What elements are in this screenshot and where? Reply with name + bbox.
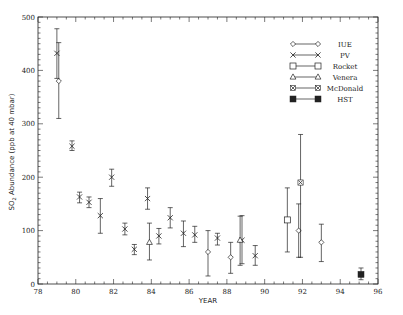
- legend-item-venera: Venera: [290, 74, 357, 82]
- series-pv: [54, 29, 258, 266]
- data-point: [156, 228, 161, 243]
- y-tick-label: 300: [22, 120, 35, 128]
- x-tick-label: 80: [71, 288, 80, 296]
- data-point: [284, 188, 290, 252]
- data-point: [86, 197, 91, 208]
- data-point: [145, 188, 150, 209]
- data-point: [181, 221, 186, 247]
- legend-item-rocket: Rocket: [290, 63, 357, 71]
- legend-item-pv: PV: [290, 52, 350, 60]
- legend-item-hst: HST: [290, 96, 353, 104]
- legend: IUEPVRocketVeneraMcDonaldHST: [290, 41, 364, 104]
- data-point: [132, 244, 137, 254]
- diamond-marker-icon: [315, 41, 320, 46]
- data-point: [98, 199, 103, 234]
- x-tick-label: 82: [109, 288, 118, 296]
- x-tick-label: 84: [147, 288, 156, 296]
- legend-item-mcdonald: McDonald: [290, 85, 363, 93]
- data-point: [215, 233, 220, 245]
- series-iue: [56, 43, 324, 276]
- filled-square-marker-icon: [358, 271, 364, 277]
- legend-item-iue: IUE: [290, 41, 351, 49]
- legend-label: IUE: [338, 41, 352, 49]
- diamond-marker-icon: [228, 255, 233, 260]
- data-point: [69, 141, 74, 151]
- y-axis-title-rest: Abundance (ppb at 40 mbar): [8, 93, 16, 197]
- x-tick-label: 96: [374, 288, 383, 296]
- data-point: [358, 268, 364, 280]
- legend-label: HST: [337, 96, 353, 104]
- legend-label: Rocket: [333, 63, 358, 71]
- square-marker-icon: [284, 217, 290, 223]
- y-axis-title: SO2 Abundance (ppb at 40 mbar): [8, 93, 17, 210]
- diamond-marker-icon: [205, 249, 210, 254]
- diamond-marker-icon: [319, 240, 324, 245]
- chart-figure: 788082848688909294960100200300400500 IUE…: [0, 0, 403, 315]
- data-point: [319, 224, 324, 261]
- triangle-marker-icon: [290, 74, 296, 79]
- triangle-marker-icon: [147, 239, 153, 244]
- y-tick-label: 0: [31, 281, 35, 289]
- series-rocket: [284, 188, 290, 252]
- y-tick-label: 500: [22, 14, 35, 22]
- data-point: [109, 169, 114, 186]
- x-tick-label: 88: [222, 288, 231, 296]
- filled-square-marker-icon: [290, 96, 296, 102]
- y-tick-label: 400: [22, 67, 35, 75]
- series-hst: [358, 268, 364, 280]
- diamond-marker-icon: [290, 41, 295, 46]
- x-tick-label: 78: [34, 288, 43, 296]
- square-marker-icon: [290, 63, 296, 69]
- x-tick-label: 94: [336, 288, 345, 296]
- data-point: [122, 223, 127, 235]
- legend-label: Venera: [332, 74, 358, 82]
- data-point: [168, 208, 173, 228]
- data-point: [253, 246, 258, 266]
- data-point: [192, 226, 197, 242]
- filled-square-marker-icon: [315, 96, 321, 102]
- x-tick-label: 92: [298, 288, 307, 296]
- x-tick-label: 90: [260, 288, 269, 296]
- triangle-marker-icon: [315, 74, 321, 79]
- y-axis-title-so: SO: [8, 200, 16, 210]
- axis-ticks: 788082848688909294960100200300400500: [22, 14, 383, 297]
- x-tick-label: 86: [185, 288, 194, 296]
- legend-label: McDonald: [327, 85, 364, 93]
- y-tick-label: 200: [22, 174, 35, 182]
- data-point: [147, 223, 153, 260]
- x-axis-title: YEAR: [198, 297, 217, 305]
- y-tick-label: 100: [22, 227, 35, 235]
- diamond-marker-icon: [56, 78, 61, 83]
- square-marker-icon: [315, 63, 321, 69]
- legend-label: PV: [340, 52, 351, 60]
- data-point: [228, 242, 233, 273]
- data-point: [77, 192, 82, 203]
- data-point: [205, 231, 210, 276]
